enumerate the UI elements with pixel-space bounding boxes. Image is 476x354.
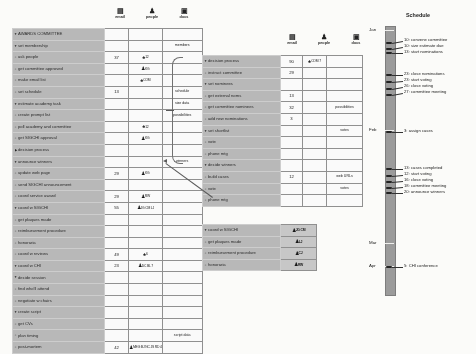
people-cell[interactable]: MEG BJ NC JS RD 4: [129, 342, 163, 354]
outline-row-label-cell[interactable]: make email list: [13, 75, 105, 87]
outline-row-label-cell[interactable]: get committee approved: [13, 63, 105, 75]
people-cell[interactable]: [129, 86, 163, 98]
people-cell[interactable]: KG: [129, 63, 163, 75]
outline-row-label-cell[interactable]: coord service award: [13, 191, 105, 203]
email-cell[interactable]: [105, 330, 129, 342]
email-cell[interactable]: [281, 183, 303, 195]
people-cell[interactable]: [129, 295, 163, 307]
docs-cell[interactable]: possibilities: [327, 102, 363, 114]
outline-row-label-cell[interactable]: negotiate w chairs: [13, 295, 105, 307]
outline-row-label-cell[interactable]: create prompt list: [13, 110, 105, 122]
outline-row-label-cell[interactable]: poll academy and committee: [13, 121, 105, 133]
outline-row-label-cell[interactable]: add new nominations: [203, 113, 281, 125]
email-cell[interactable]: [105, 63, 129, 75]
docs-cell[interactable]: [327, 67, 363, 79]
people-cell[interactable]: [129, 307, 163, 319]
people-cell[interactable]: COM: [129, 75, 163, 87]
outline-row-label-cell[interactable]: coord w CHI: [13, 260, 105, 272]
outline-row-label-cell[interactable]: coord w SIGCHI: [13, 202, 105, 214]
outline-row[interactable]: phone mtg: [203, 195, 363, 207]
email-cell[interactable]: 42: [105, 342, 129, 354]
outline-row[interactable]: coord w SIGCHIJG CM: [203, 225, 317, 237]
email-cell[interactable]: [105, 29, 129, 41]
email-cell[interactable]: [281, 148, 303, 160]
email-cell[interactable]: 49: [105, 249, 129, 261]
people-cell[interactable]: COM 7: [303, 56, 327, 68]
outline-row[interactable]: set membershipmembers: [13, 40, 203, 52]
docs-cell[interactable]: [162, 307, 202, 319]
docs-cell[interactable]: [327, 137, 363, 149]
outline-row[interactable]: find who'll attend: [13, 284, 203, 296]
email-cell[interactable]: [105, 98, 129, 110]
outline-row-label-cell[interactable]: phone mtg: [203, 195, 281, 207]
email-cell[interactable]: 3: [281, 113, 303, 125]
outline-row[interactable]: plan timingscript data: [13, 330, 203, 342]
outline-row-label-cell[interactable]: honoraria: [13, 237, 105, 249]
outline-row[interactable]: decide session: [13, 272, 203, 284]
docs-cell[interactable]: web URLs: [327, 171, 363, 183]
value-cell[interactable]: LJ: [281, 236, 317, 248]
outline-row-label-cell[interactable]: set nominees: [203, 79, 281, 91]
people-cell[interactable]: 12: [129, 52, 163, 64]
docs-cell[interactable]: [327, 79, 363, 91]
people-cell[interactable]: [303, 171, 327, 183]
docs-cell[interactable]: [162, 29, 202, 41]
docs-cell[interactable]: members: [162, 40, 202, 52]
outline-row-label-cell[interactable]: post-mortem: [13, 342, 105, 354]
people-cell[interactable]: [129, 98, 163, 110]
docs-cell[interactable]: [162, 342, 202, 354]
outline-row[interactable]: get plaques madeLJ: [203, 236, 317, 248]
docs-cell[interactable]: [162, 237, 202, 249]
email-cell[interactable]: 29: [281, 67, 303, 79]
email-cell[interactable]: [105, 144, 129, 156]
outline-row-label-cell[interactable]: find who'll attend: [13, 284, 105, 296]
docs-cell[interactable]: [327, 113, 363, 125]
people-cell[interactable]: [303, 113, 327, 125]
outline-row-label-cell[interactable]: AWARDS COMMITTEE: [13, 29, 105, 41]
outline-row-label-cell[interactable]: estimate academy task: [13, 98, 105, 110]
email-cell[interactable]: 37: [105, 52, 129, 64]
people-cell[interactable]: [129, 214, 163, 226]
outline-row-label-cell[interactable]: coord w reviews: [13, 249, 105, 261]
outline-row[interactable]: honorariaRW: [203, 259, 317, 271]
people-cell[interactable]: [129, 110, 163, 122]
outline-row-label-cell[interactable]: ask people: [13, 52, 105, 64]
outline-row-label-cell[interactable]: set shortlist: [203, 125, 281, 137]
outline-row-label-cell[interactable]: create script: [13, 307, 105, 319]
people-cell[interactable]: [303, 125, 327, 137]
people-cell[interactable]: [303, 195, 327, 207]
docs-cell[interactable]: script data: [162, 330, 202, 342]
people-cell[interactable]: KG: [129, 133, 163, 145]
value-cell[interactable]: CJ: [281, 248, 317, 260]
outline-row-label-cell[interactable]: vote: [203, 137, 281, 149]
people-cell[interactable]: RW: [129, 191, 163, 203]
outline-row-label-cell[interactable]: get plaques made: [13, 214, 105, 226]
people-cell[interactable]: [129, 144, 163, 156]
docs-cell[interactable]: [162, 272, 202, 284]
email-cell[interactable]: [105, 156, 129, 168]
email-cell[interactable]: [105, 40, 129, 52]
email-cell[interactable]: 13: [281, 90, 303, 102]
email-cell[interactable]: [105, 272, 129, 284]
email-cell[interactable]: 12: [281, 171, 303, 183]
outline-row[interactable]: votevotes: [203, 183, 363, 195]
value-cell[interactable]: RW: [281, 259, 317, 271]
people-cell[interactable]: [129, 226, 163, 238]
email-cell[interactable]: [105, 110, 129, 122]
people-cell[interactable]: [303, 90, 327, 102]
outline-row-label-cell[interactable]: coord w SIGCHI: [203, 225, 281, 237]
email-cell[interactable]: [281, 137, 303, 149]
outline-row-label-cell[interactable]: update web page: [13, 168, 105, 180]
email-cell[interactable]: [281, 79, 303, 91]
email-cell[interactable]: [105, 284, 129, 296]
people-cell[interactable]: [303, 148, 327, 160]
outline-row[interactable]: set nominees: [203, 79, 363, 91]
outline-row-label-cell[interactable]: announce winners: [13, 156, 105, 168]
outline-row[interactable]: set shortlistvotes: [203, 125, 363, 137]
outline-row[interactable]: create script: [13, 307, 203, 319]
email-cell[interactable]: 29: [105, 191, 129, 203]
docs-cell[interactable]: [162, 318, 202, 330]
outline-row-label-cell[interactable]: get plaques made: [203, 236, 281, 248]
email-cell[interactable]: 29: [105, 168, 129, 180]
people-cell[interactable]: [129, 29, 163, 41]
